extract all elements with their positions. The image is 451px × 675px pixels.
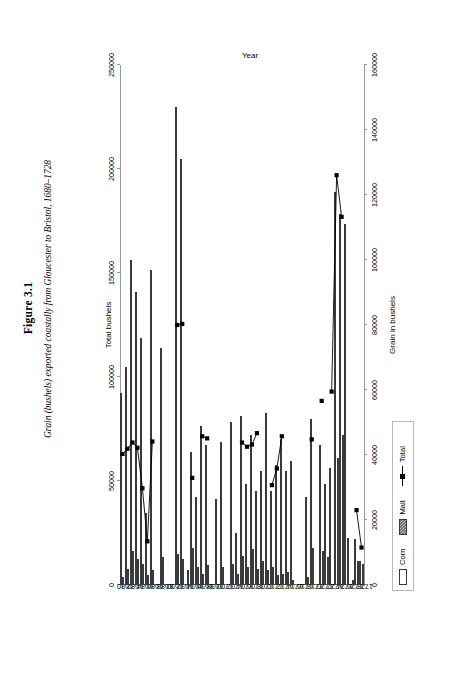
total-line-segment bbox=[271, 436, 281, 485]
total-line-segment bbox=[356, 510, 361, 547]
figure-caption-block: Figure 3.1 Grain (bushels) exported coas… bbox=[22, 178, 82, 438]
corn-swatch-icon bbox=[398, 569, 406, 585]
primary-axis-title: Grain in bushels bbox=[388, 296, 397, 354]
total-marker bbox=[190, 475, 194, 479]
total-marker bbox=[319, 398, 323, 402]
total-marker bbox=[180, 321, 184, 325]
legend-item-malt: Malt bbox=[398, 500, 407, 534]
total-marker bbox=[334, 173, 338, 177]
chart-rotation-wrapper: 0200004000060000800001000001200001400001… bbox=[106, 33, 424, 643]
total-line-segment bbox=[331, 175, 341, 391]
category-axis-title: Year bbox=[242, 51, 258, 60]
total-marker bbox=[354, 508, 358, 512]
total-line-segment bbox=[242, 433, 257, 447]
legend-label-corn: Corn bbox=[398, 548, 407, 564]
figure-number: Figure 3.1 bbox=[22, 178, 34, 438]
secondary-axis-title: Total bushels bbox=[104, 301, 113, 348]
legend-item-corn: Corn bbox=[398, 548, 407, 584]
total-line-segment bbox=[122, 441, 152, 541]
chart-container: 0200004000060000800001000001200001400001… bbox=[78, 0, 451, 675]
legend-label-total: Total bbox=[398, 446, 407, 462]
total-line-series bbox=[106, 33, 424, 643]
legend-item-total: Total bbox=[398, 446, 407, 486]
total-marker bbox=[150, 439, 154, 443]
chart-legend: Corn Malt Total bbox=[398, 446, 407, 585]
total-marker bbox=[309, 437, 313, 441]
figure-title: Grain (bushels) exported coastally from … bbox=[43, 178, 53, 438]
total-marker bbox=[200, 434, 204, 438]
legend-label-malt: Malt bbox=[398, 500, 407, 514]
malt-swatch-icon bbox=[398, 518, 406, 534]
plot-area: 0200004000060000800001000001200001400001… bbox=[106, 33, 424, 643]
total-swatch-icon bbox=[398, 466, 406, 486]
total-marker bbox=[329, 389, 333, 393]
